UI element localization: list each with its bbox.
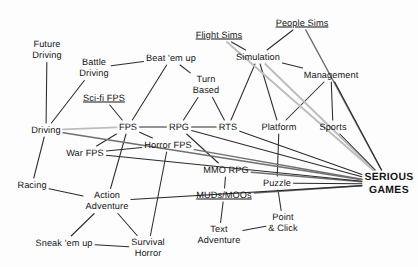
node-mmo_rpg[interactable]: MMO RPG	[203, 165, 249, 176]
edge-simulation-to-management	[282, 63, 302, 68]
node-serious_games[interactable]: SERIOUS GAMES	[364, 172, 413, 197]
edge-action_adv-to-sneak_em_up	[71, 214, 94, 237]
edge-driving-to-fps	[63, 127, 116, 129]
edge-puzzle-to-point_click	[278, 190, 281, 211]
edge-platform-to-puzzle	[277, 134, 279, 176]
edge-battle_driving-to-driving	[51, 81, 84, 124]
node-people_sims[interactable]: People Sims	[276, 18, 329, 29]
node-simulation[interactable]: Simulation	[236, 52, 280, 63]
edge-people_sims-to-simulation	[267, 30, 293, 50]
node-battle_driving[interactable]: Battle Driving	[79, 57, 108, 79]
node-horror_fps[interactable]: Horror FPS	[144, 140, 191, 151]
edge-muds_moos-to-text_adv	[221, 202, 224, 223]
edge-action_adv-to-survival_horror	[118, 214, 137, 236]
edge-fps-to-horror_fps	[140, 132, 153, 138]
edge-turn_based-to-rpg	[184, 98, 198, 121]
edge-beat_em_up-to-turn_based	[180, 65, 190, 73]
node-future_driving[interactable]: Future Driving	[32, 39, 61, 61]
node-beat_em_up[interactable]: Beat 'em up	[146, 53, 196, 64]
node-fps[interactable]: FPS	[119, 122, 137, 133]
edge-battle_driving-to-beat_em_up	[111, 62, 143, 66]
node-flight_sims[interactable]: Flight Sims	[196, 30, 243, 41]
node-turn_based[interactable]: Turn Based	[193, 74, 220, 96]
edge-simulation-to-rts	[231, 64, 255, 120]
edge-driving-to-racing	[34, 137, 44, 178]
node-rpg[interactable]: RPG	[169, 122, 189, 133]
edge-scifi_fps-to-fps	[110, 105, 122, 120]
node-sports[interactable]: Sports	[319, 122, 346, 133]
node-point_click[interactable]: Point & Click	[268, 212, 297, 234]
node-war_fps[interactable]: War FPS	[66, 148, 104, 159]
edge-beat_em_up-to-fps	[132, 65, 166, 120]
node-management[interactable]: Management	[304, 70, 359, 81]
edge-horror_fps-to-survival_horror	[150, 152, 166, 236]
node-rts[interactable]: RTS	[219, 122, 238, 133]
node-racing[interactable]: Racing	[17, 180, 46, 191]
node-scifi_fps[interactable]: Sci-fi FPS	[83, 93, 125, 104]
node-text_adv[interactable]: Text Adventure	[198, 224, 241, 246]
edge-mmo_rpg-to-muds_moos	[225, 177, 226, 188]
genre-map-canvas: Future DrivingBattle DrivingBeat 'em upF…	[0, 0, 418, 267]
node-muds_moos[interactable]: MUDs/MOOs	[196, 190, 252, 201]
edge-sports-to-serious_games	[340, 134, 375, 170]
node-survival_horror[interactable]: Survival Horror	[131, 237, 164, 259]
edge-point_click-to-text_adv	[243, 226, 266, 230]
edge-future_driving-to-driving	[46, 63, 47, 124]
edge-management-to-sports	[331, 82, 332, 120]
edge-puzzle-to-serious_games	[294, 183, 362, 184]
edge-turn_based-to-rts	[213, 98, 225, 121]
node-action_adv[interactable]: Action Adventure	[86, 190, 129, 212]
node-driving[interactable]: Driving	[31, 125, 60, 136]
edge-war_fps-to-horror_fps	[106, 148, 141, 151]
node-sneak_em_up[interactable]: Sneak 'em up	[35, 238, 92, 249]
edge-racing-to-action_adv	[49, 189, 83, 196]
node-puzzle[interactable]: Puzzle	[263, 178, 291, 189]
node-platform[interactable]: Platform	[261, 122, 296, 133]
edge-sneak_em_up-to-survival_horror	[95, 245, 129, 247]
